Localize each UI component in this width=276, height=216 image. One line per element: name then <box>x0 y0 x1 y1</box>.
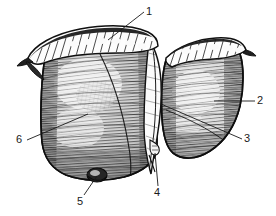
liver-anatomy-figure: 1 2 3 4 5 6 <box>0 0 276 216</box>
label-4: 4 <box>154 187 160 198</box>
label-6: 6 <box>16 134 22 145</box>
gallbladder-highlight <box>90 170 100 176</box>
liver-illustration-svg <box>0 0 276 216</box>
gallbladder-fundus <box>87 168 107 182</box>
label-3: 3 <box>244 133 250 144</box>
label-2: 2 <box>257 95 263 106</box>
label-5: 5 <box>77 196 83 207</box>
label-1: 1 <box>146 6 152 17</box>
